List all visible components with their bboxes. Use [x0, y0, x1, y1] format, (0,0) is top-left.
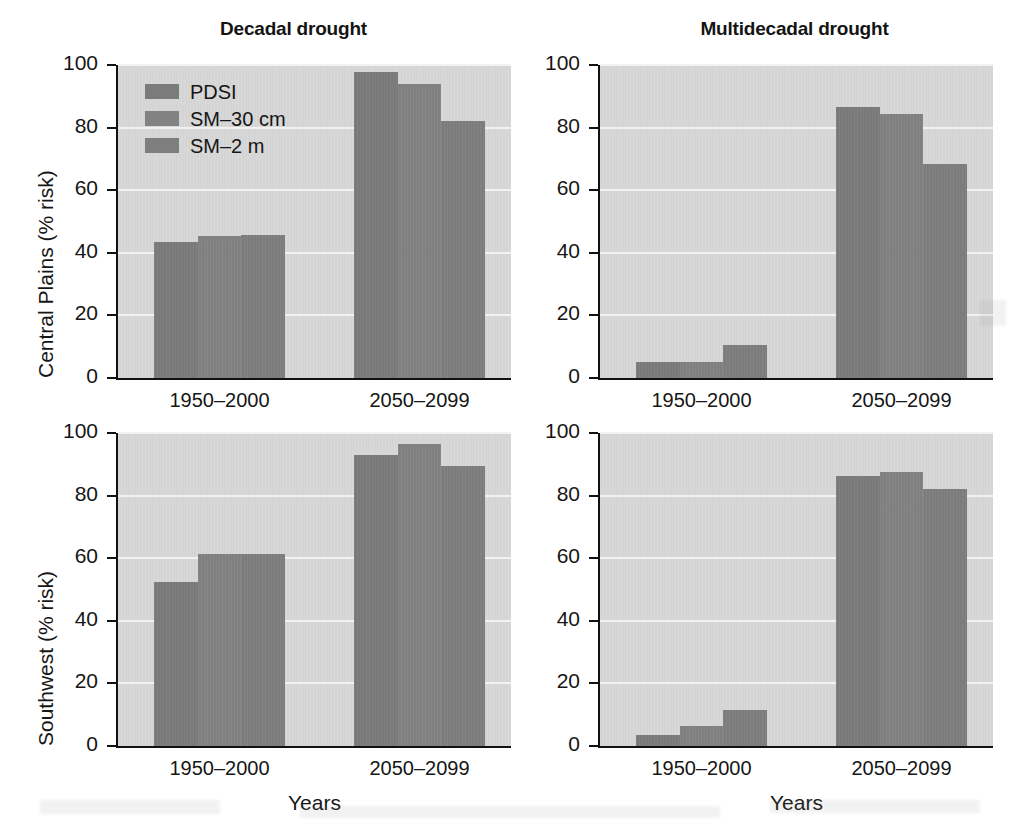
- x-axis-tick-label: 1950–2000: [612, 757, 792, 780]
- y-axis-tick-label: 20: [525, 301, 580, 325]
- y-axis-tick: [589, 557, 598, 559]
- y-axis-tick-label: 40: [525, 607, 580, 631]
- y-axis-title-southwest: Southwest (% risk): [34, 571, 58, 746]
- y-axis-tick-label: 0: [525, 732, 580, 756]
- bar-southwest-decadal-hist-pdsi: [154, 582, 198, 746]
- x-axis-tick-label: 1950–2000: [130, 389, 310, 412]
- plot-area-southwest-multidecadal: [600, 433, 993, 746]
- gridline: [600, 64, 993, 66]
- legend-swatch-sm30-icon: [145, 111, 179, 126]
- y-axis-tick-label: 100: [525, 51, 580, 75]
- bar-southwest-multidecadal-hist-pdsi: [636, 735, 680, 746]
- bar-central-plains-multidecadal-future-pdsi: [836, 107, 880, 378]
- y-axis-tick: [589, 127, 598, 129]
- y-axis-line: [116, 65, 118, 380]
- y-axis-tick-label: 40: [525, 239, 580, 263]
- legend-item: SM–2 m: [145, 132, 286, 159]
- y-axis-line: [598, 65, 600, 380]
- y-axis-tick: [107, 620, 116, 622]
- x-axis-line: [116, 378, 511, 380]
- y-axis-tick: [589, 377, 598, 379]
- bar-southwest-multidecadal-future-sm-2-m: [923, 489, 967, 746]
- bar-southwest-decadal-future-sm-30-cm: [398, 444, 442, 746]
- y-axis-tick-label: 60: [525, 176, 580, 200]
- bar-southwest-multidecadal-future-sm-30-cm: [880, 472, 924, 746]
- legend-item: SM–30 cm: [145, 105, 286, 132]
- x-axis-title-years: Years: [215, 791, 415, 815]
- legend-item: PDSI: [145, 78, 286, 105]
- y-axis-tick: [107, 189, 116, 191]
- legend-item-label: PDSI: [190, 82, 237, 102]
- plot-area-central-plains-decadal: PDSISM–30 cmSM–2 m: [118, 65, 511, 378]
- bar-southwest-multidecadal-future-pdsi: [836, 476, 880, 746]
- y-axis-tick-label: 80: [43, 114, 98, 138]
- plot-area-central-plains-multidecadal: [600, 65, 993, 378]
- bar-central-plains-decadal-hist-pdsi: [154, 242, 198, 378]
- y-axis-tick: [107, 127, 116, 129]
- y-axis-tick: [107, 377, 116, 379]
- y-axis-tick-label: 100: [43, 419, 98, 443]
- y-axis-tick: [107, 314, 116, 316]
- panel-southwest-decadal: 0204060801001950–20002050–2099Southwest …: [0, 420, 511, 837]
- bar-southwest-decadal-future-sm-2-m: [441, 466, 485, 746]
- panel-title-multidecadal-drought: Multidecadal drought: [511, 18, 1022, 40]
- legend-item-label: SM–30 cm: [190, 109, 286, 129]
- bar-southwest-decadal-hist-sm-30-cm: [198, 554, 242, 746]
- panel-central-plains-multidecadal: Multidecadal drought 0204060801001950–20…: [511, 0, 1022, 420]
- x-axis-tick-label: 2050–2099: [330, 389, 510, 412]
- y-axis-tick: [589, 314, 598, 316]
- gridline: [600, 432, 993, 434]
- y-axis-tick: [107, 745, 116, 747]
- gridline: [600, 127, 993, 129]
- y-axis-tick: [589, 620, 598, 622]
- y-axis-tick: [589, 495, 598, 497]
- y-axis-line: [116, 433, 118, 748]
- y-axis-title-central-plains: Central Plains (% risk): [34, 170, 58, 378]
- bar-central-plains-decadal-future-pdsi: [354, 72, 398, 378]
- y-axis-tick: [107, 495, 116, 497]
- panel-title-decadal-drought: Decadal drought: [0, 18, 511, 40]
- bar-southwest-multidecadal-hist-sm-2-m: [723, 710, 767, 746]
- panel-central-plains-decadal: Decadal drought PDSISM–30 cmSM–2 m 02040…: [0, 0, 511, 420]
- x-axis-line: [598, 746, 993, 748]
- y-axis-tick-label: 100: [525, 419, 580, 443]
- legend-swatch-sm2-icon: [145, 138, 179, 153]
- bar-central-plains-multidecadal-future-sm-30-cm: [880, 114, 924, 378]
- y-axis-tick: [589, 432, 598, 434]
- y-axis-tick: [107, 557, 116, 559]
- y-axis-tick: [107, 252, 116, 254]
- y-axis-tick: [107, 682, 116, 684]
- x-axis-tick-label: 1950–2000: [130, 757, 310, 780]
- legend-swatch-pdsi-icon: [145, 84, 179, 99]
- y-axis-tick-label: 20: [525, 669, 580, 693]
- bar-southwest-multidecadal-hist-sm-30-cm: [680, 726, 724, 746]
- y-axis-tick-label: 80: [43, 482, 98, 506]
- y-axis-tick: [107, 64, 116, 66]
- x-axis-tick-label: 1950–2000: [612, 389, 792, 412]
- x-axis-tick-label: 2050–2099: [812, 757, 992, 780]
- gridline: [118, 432, 511, 434]
- bar-southwest-decadal-hist-sm-2-m: [241, 554, 285, 746]
- y-axis-tick: [589, 682, 598, 684]
- gridline: [118, 64, 511, 66]
- x-axis-tick-label: 2050–2099: [812, 389, 992, 412]
- y-axis-tick: [589, 64, 598, 66]
- bar-central-plains-decadal-hist-sm-2-m: [241, 235, 285, 378]
- bar-central-plains-decadal-future-sm-30-cm: [398, 84, 442, 378]
- bar-southwest-decadal-future-pdsi: [354, 455, 398, 746]
- y-axis-tick: [107, 432, 116, 434]
- y-axis-tick-label: 0: [525, 364, 580, 388]
- bar-central-plains-decadal-future-sm-2-m: [441, 121, 485, 378]
- bar-central-plains-multidecadal-future-sm-2-m: [923, 164, 967, 378]
- bar-central-plains-multidecadal-hist-sm-30-cm: [680, 362, 724, 378]
- y-axis-tick-label: 100: [43, 51, 98, 75]
- legend-item-label: SM–2 m: [190, 136, 264, 156]
- x-axis-title-years: Years: [697, 791, 897, 815]
- panel-southwest-multidecadal: 0204060801001950–20002050–2099Years: [511, 420, 1022, 837]
- bar-central-plains-multidecadal-hist-sm-2-m: [723, 345, 767, 378]
- bar-central-plains-multidecadal-hist-pdsi: [636, 362, 680, 378]
- y-axis-tick-label: 60: [43, 544, 98, 568]
- x-axis-line: [598, 378, 993, 380]
- y-axis-tick-label: 80: [525, 114, 580, 138]
- y-axis-tick: [589, 745, 598, 747]
